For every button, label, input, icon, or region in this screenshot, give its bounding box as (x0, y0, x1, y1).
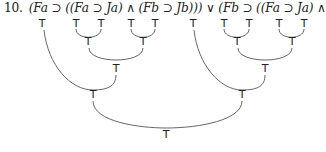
truth-value-label: T (261, 62, 269, 75)
truth-value-label: T (72, 17, 80, 30)
truth-value-label: T (84, 35, 92, 48)
truth-value-label: T (97, 17, 105, 30)
truth-value-label: T (245, 17, 253, 30)
truth-value-label: T (162, 128, 170, 141)
truth-value-label: T (89, 88, 97, 101)
truth-tree-diagram: TTTTTTTTTTTTTTTTTTT (0, 0, 326, 152)
arc (194, 30, 265, 90)
truth-value-label: T (38, 17, 46, 30)
arc (44, 30, 116, 90)
truth-value-label: T (238, 88, 246, 101)
arc (93, 101, 242, 128)
truth-value-label: T (112, 62, 120, 75)
truth-value-label: T (139, 35, 147, 48)
truth-value-label: T (127, 17, 135, 30)
truth-value-label: T (233, 35, 241, 48)
arc (238, 48, 292, 60)
truth-value-label: T (300, 17, 308, 30)
truth-value-label: T (189, 17, 197, 30)
truth-value-label: T (288, 35, 296, 48)
arc (89, 48, 143, 60)
truth-value-label: T (275, 17, 283, 30)
truth-value-label: T (151, 17, 159, 30)
truth-value-label: T (220, 17, 228, 30)
